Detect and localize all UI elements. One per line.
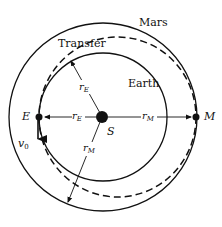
earth-label: Earth (128, 77, 159, 90)
hohmann-diagram: Mars Transfer Earth E M S v0 rE rM rE rM (0, 0, 222, 227)
earth-point-label: E (21, 110, 30, 123)
sun (96, 111, 108, 123)
mars-point-label: M (203, 110, 216, 123)
earth-point (36, 114, 43, 121)
mars-label: Mars (139, 16, 168, 29)
velocity-label: v0 (18, 137, 29, 151)
transfer-label: Transfer (58, 37, 106, 50)
sun-label: S (107, 125, 115, 138)
mars-point (193, 114, 200, 121)
